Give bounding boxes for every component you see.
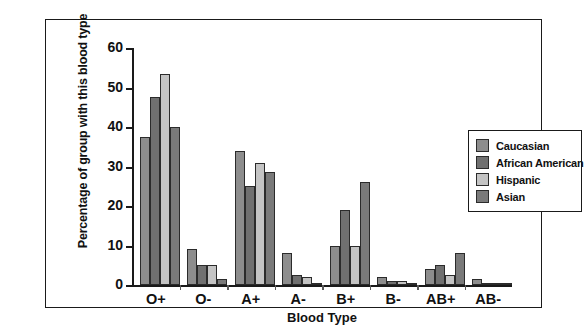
legend-item: Caucasian [476, 137, 575, 154]
legend-item: Hispanic [476, 171, 575, 188]
y-tick-label: 0 [115, 276, 123, 292]
bar-group [187, 48, 227, 285]
x-tick-label: AB- [465, 291, 513, 307]
y-tick-mark [126, 206, 132, 208]
bar [245, 186, 255, 285]
bar [217, 279, 227, 285]
x-tick-label: B+ [322, 291, 370, 307]
legend-swatch-icon [476, 156, 489, 169]
bar [445, 275, 455, 285]
bar [472, 279, 482, 285]
bar [235, 151, 245, 285]
x-tick-label: O- [180, 291, 228, 307]
bar [425, 269, 435, 285]
bar [377, 277, 387, 285]
bar [207, 265, 217, 285]
x-tick-mark [180, 285, 182, 290]
bar [292, 275, 302, 285]
y-tick-mark [126, 48, 132, 50]
y-tick-mark [126, 246, 132, 248]
bar [455, 253, 465, 285]
legend-swatch-icon [476, 139, 489, 152]
x-tick-label: O+ [132, 291, 180, 307]
legend-label: Asian [496, 191, 525, 203]
bar [435, 265, 445, 285]
legend-swatch-icon [476, 190, 489, 203]
bar [160, 74, 170, 285]
x-tick-mark [417, 285, 419, 290]
bar-group [330, 48, 370, 285]
bar [302, 277, 312, 285]
bar-group [282, 48, 322, 285]
bar [482, 283, 492, 285]
legend-swatch-icon [476, 173, 489, 186]
bar-group [377, 48, 417, 285]
bar [350, 246, 360, 286]
bar [397, 281, 407, 285]
y-tick-mark [126, 167, 132, 169]
legend: CaucasianAfrican AmericanHispanicAsian [468, 130, 582, 212]
x-tick-mark [370, 285, 372, 290]
bar-group [140, 48, 180, 285]
plot-area: 0102030405060 O+O-A+A-B+B-AB+AB- [132, 48, 512, 285]
bar [282, 253, 292, 285]
x-tick-label: A- [275, 291, 323, 307]
y-tick-mark [126, 127, 132, 129]
bar [150, 97, 160, 285]
bar [312, 283, 322, 285]
legend-label: Hispanic [496, 174, 540, 186]
y-axis-line [132, 48, 134, 285]
plot-inner: 0102030405060 O+O-A+A-B+B-AB+AB- [132, 48, 512, 285]
y-tick-label: 60 [107, 39, 123, 55]
x-tick-mark [465, 285, 467, 290]
x-tick-mark [275, 285, 277, 290]
chart-figure: Percentage of group with this blood type… [0, 0, 588, 329]
bar [492, 283, 502, 285]
y-axis-title: Percentage of group with this blood type [76, 6, 90, 256]
bar [360, 182, 370, 285]
x-tick-label: AB+ [417, 291, 465, 307]
y-tick-label: 40 [107, 118, 123, 134]
x-tick-mark [227, 285, 229, 290]
x-axis-title: Blood Type [132, 310, 512, 325]
x-tick-label: A+ [227, 291, 275, 307]
bar [407, 283, 417, 285]
bar [255, 163, 265, 285]
legend-label: Caucasian [496, 140, 549, 152]
y-tick-label: 50 [107, 79, 123, 95]
bar [387, 281, 397, 285]
y-tick-mark [126, 285, 132, 287]
legend-item: African American [476, 154, 575, 171]
x-tick-mark [322, 285, 324, 290]
figure-frame: Percentage of group with this blood type… [45, 19, 542, 308]
bar-group [235, 48, 275, 285]
bar-group [425, 48, 465, 285]
bar [140, 137, 150, 285]
bar [187, 249, 197, 285]
bar [502, 283, 512, 285]
legend-item: Asian [476, 188, 575, 205]
y-tick-label: 20 [107, 197, 123, 213]
legend-label: African American [496, 157, 583, 169]
bar [197, 265, 207, 285]
y-tick-label: 10 [107, 237, 123, 253]
x-tick-label: B- [370, 291, 418, 307]
bar [340, 210, 350, 285]
y-tick-label: 30 [107, 158, 123, 174]
bar [170, 127, 180, 285]
bar [330, 246, 340, 286]
bar [265, 172, 275, 285]
y-tick-mark [126, 88, 132, 90]
